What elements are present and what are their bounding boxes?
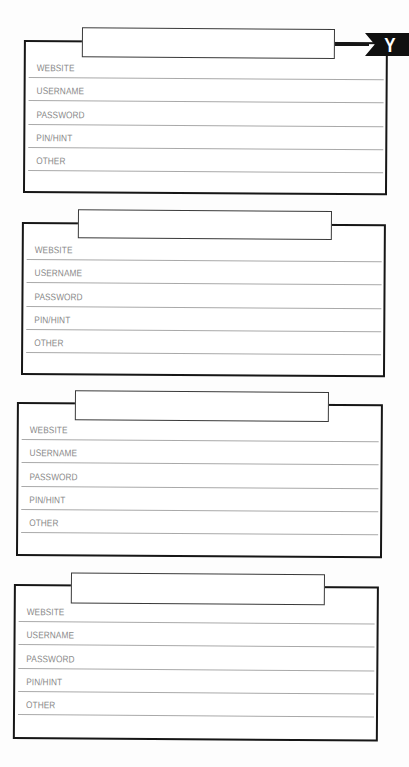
pin-hint-input[interactable] (88, 672, 368, 690)
username-input[interactable] (91, 444, 372, 462)
field-row-website: WEBSITE (26, 237, 381, 262)
field-label-website: WEBSITE (36, 62, 74, 73)
entry-title-box (75, 390, 329, 422)
website-input[interactable] (96, 240, 375, 258)
field-row-password: PASSWORD (26, 283, 381, 308)
other-input[interactable] (91, 513, 372, 531)
other-input[interactable] (88, 695, 368, 713)
field-row-pin-hint: PIN/HINT (28, 125, 383, 150)
field-label-password: PASSWORD (36, 109, 84, 120)
field-label-website: WEBSITE (34, 244, 72, 255)
letter-tab-connector (335, 44, 369, 47)
password-input[interactable] (88, 649, 368, 667)
field-label-other: OTHER (36, 155, 65, 166)
extra-input[interactable] (29, 536, 372, 555)
username-input[interactable] (96, 264, 375, 282)
field-label-other: OTHER (26, 699, 55, 710)
field-label-username: USERNAME (36, 85, 84, 96)
field-row-password: PASSWORD (28, 101, 383, 126)
username-input[interactable] (98, 82, 377, 100)
field-label-password: PASSWORD (29, 471, 77, 482)
field-label-username: USERNAME (26, 629, 74, 640)
field-row-extra (25, 353, 380, 378)
field-label-website: WEBSITE (26, 606, 64, 617)
field-label-other: OTHER (29, 517, 58, 528)
entry-frame: WEBSITE USERNAME PASSWORD PIN/HINT OTHER (23, 40, 388, 195)
field-row-pin-hint: PIN/HINT (18, 669, 374, 695)
field-row-password: PASSWORD (21, 463, 378, 488)
field-row-other: OTHER (26, 330, 381, 355)
entry-fields: WEBSITE USERNAME PASSWORD PIN/HINT OTHER (17, 599, 374, 741)
field-label-pin-hint: PIN/HINT (26, 676, 62, 687)
website-input[interactable] (88, 603, 368, 621)
field-label-pin-hint: PIN/HINT (29, 494, 65, 505)
field-label-website: WEBSITE (29, 424, 67, 435)
field-label-password: PASSWORD (26, 653, 74, 664)
pin-hint-input[interactable] (96, 310, 375, 328)
other-input[interactable] (96, 333, 375, 351)
field-row-pin-hint: PIN/HINT (21, 487, 378, 512)
entry-fields: WEBSITE USERNAME PASSWORD PIN/HINT OTHER (25, 237, 381, 378)
field-label-username: USERNAME (34, 267, 82, 278)
password-input[interactable] (98, 105, 377, 123)
password-input[interactable] (96, 287, 375, 305)
field-row-username: USERNAME (28, 78, 383, 103)
other-input[interactable] (98, 151, 377, 169)
username-input[interactable] (88, 626, 368, 644)
field-label-pin-hint: PIN/HINT (36, 132, 72, 143)
entry-frame: WEBSITE USERNAME PASSWORD PIN/HINT OTHER (13, 584, 379, 742)
entry-title-box (82, 27, 335, 59)
entry-title-box (71, 572, 325, 605)
password-input[interactable] (91, 467, 372, 485)
field-row-other: OTHER (28, 148, 383, 173)
field-row-password: PASSWORD (18, 645, 374, 671)
entry-fields: WEBSITE USERNAME PASSWORD PIN/HINT OTHER (27, 55, 383, 196)
field-row-other: OTHER (21, 510, 378, 535)
field-row-username: USERNAME (21, 440, 378, 465)
extra-input[interactable] (25, 718, 367, 738)
letter-tab-label: Y (382, 33, 399, 57)
extra-input[interactable] (33, 356, 374, 375)
field-label-username: USERNAME (29, 447, 77, 458)
entry-title-input[interactable] (76, 576, 320, 601)
extra-input[interactable] (35, 174, 376, 193)
field-row-pin-hint: PIN/HINT (26, 307, 381, 332)
pin-hint-input[interactable] (98, 128, 377, 146)
logbook-page: Y WEBSITE USERNAME PASSWORD PIN/HINT (0, 0, 409, 767)
field-row-extra (27, 171, 382, 196)
field-row-extra (17, 715, 373, 741)
pin-hint-input[interactable] (91, 490, 372, 508)
entry-frame: WEBSITE USERNAME PASSWORD PIN/HINT OTHER (21, 222, 386, 377)
field-label-pin-hint: PIN/HINT (34, 314, 70, 325)
field-row-extra (20, 533, 377, 558)
field-row-username: USERNAME (18, 622, 374, 648)
entry-title-input[interactable] (83, 213, 327, 235)
field-row-username: USERNAME (26, 260, 381, 285)
website-input[interactable] (91, 420, 372, 438)
field-label-other: OTHER (34, 337, 63, 348)
field-label-password: PASSWORD (34, 291, 82, 302)
entry-title-input[interactable] (80, 394, 324, 417)
website-input[interactable] (98, 58, 377, 76)
entry-fields: WEBSITE USERNAME PASSWORD PIN/HINT OTHER (20, 417, 378, 558)
entry-title-box (78, 209, 332, 240)
entry-frame: WEBSITE USERNAME PASSWORD PIN/HINT OTHER (16, 402, 383, 558)
field-row-other: OTHER (18, 692, 374, 718)
entry-title-input[interactable] (87, 31, 330, 54)
